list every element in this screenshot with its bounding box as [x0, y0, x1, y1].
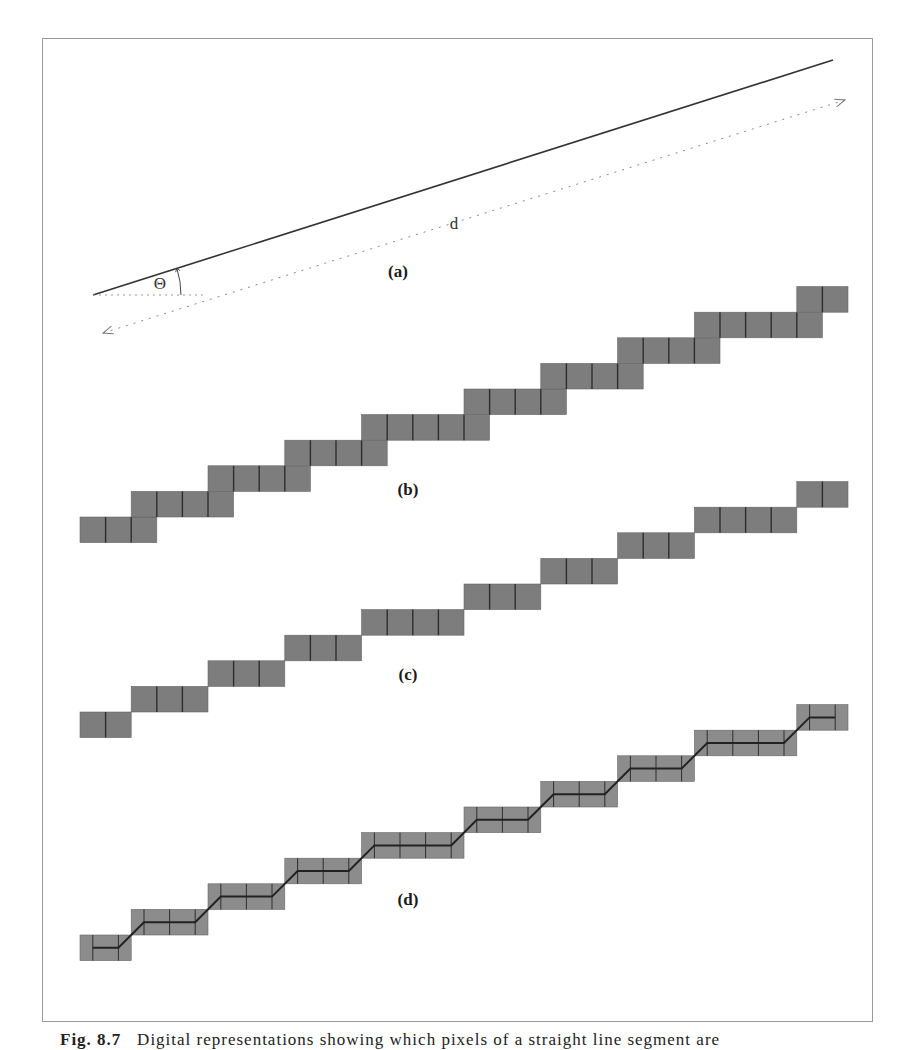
pixel-run [464, 584, 541, 610]
panel-c-pixel-grid [80, 482, 848, 738]
caption-label: Fig. 8.7 [60, 1030, 121, 1049]
angle-theta-label: Θ [154, 274, 166, 294]
panel-label-c: (c) [399, 665, 418, 685]
pixel-run [541, 558, 618, 584]
panel-label-d: (d) [398, 890, 419, 910]
pixel-run [618, 533, 695, 559]
panel-b-pixel-grid [80, 287, 848, 543]
panel-label-b: (b) [398, 480, 419, 500]
distance-d-label: d [450, 214, 459, 234]
line-segment [93, 60, 833, 295]
pixel-run [694, 312, 822, 338]
distance-arrow [103, 100, 845, 333]
pixel-run [285, 635, 362, 661]
pixel-run [362, 415, 490, 441]
figure-caption: Fig. 8.7 Digital representations showing… [60, 1030, 720, 1050]
panel-a-continuous-line [93, 60, 845, 333]
pixel-run [131, 686, 208, 712]
pixel-run [80, 517, 157, 543]
pixel-run [208, 661, 285, 687]
caption-text: Digital representations showing which pi… [137, 1030, 720, 1049]
panel-d-pixel-grid-with-chain [80, 705, 848, 961]
angle-arc [177, 268, 181, 295]
panel-label-a: (a) [388, 262, 408, 282]
